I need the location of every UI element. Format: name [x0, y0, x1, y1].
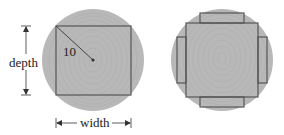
- log-cross-section-diagram: [0, 0, 284, 135]
- center-point: [91, 58, 94, 61]
- right-log-panel: [171, 9, 273, 111]
- radius-label: 10: [63, 45, 76, 58]
- depth-label: depth: [9, 55, 38, 70]
- width-label: width: [78, 116, 112, 129]
- left-log-panel: [21, 9, 144, 128]
